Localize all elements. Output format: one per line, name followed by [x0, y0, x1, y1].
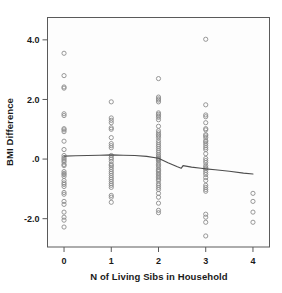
- y-tick-label: 2.0: [27, 95, 40, 105]
- y-tick-label: 4.0: [27, 35, 40, 45]
- x-tick-label: 4: [250, 256, 255, 266]
- y-axis-title: BMI Difference: [4, 98, 15, 166]
- y-tick-label: -2.0: [24, 214, 40, 224]
- x-tick-label: 1: [109, 256, 114, 266]
- x-tick-label: 0: [62, 256, 67, 266]
- x-tick-label: 2: [156, 256, 161, 266]
- x-axis-title: N of Living Sibs in Household: [90, 271, 228, 282]
- y-tick-label: .0: [32, 154, 40, 164]
- chart-figure: 01234 4.02.0.0-2.0 N of Living Sibs in H…: [0, 0, 282, 293]
- scatter-plot: 01234 4.02.0.0-2.0 N of Living Sibs in H…: [0, 0, 282, 293]
- x-tick-label: 3: [203, 256, 208, 266]
